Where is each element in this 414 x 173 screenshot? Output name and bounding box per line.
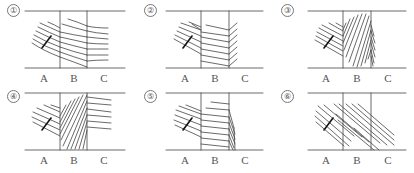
label-b: B <box>67 72 81 84</box>
label-c: C <box>238 72 252 84</box>
label-a: A <box>319 154 333 166</box>
panel-5: ⑤ <box>137 86 275 172</box>
panel-diagram <box>137 0 275 86</box>
label-a: A <box>178 72 192 84</box>
label-c: C <box>238 154 252 166</box>
label-a: A <box>37 154 51 166</box>
panel-number: ④ <box>7 90 20 103</box>
label-c: C <box>97 72 111 84</box>
label-a: A <box>319 72 333 84</box>
panel-number: ② <box>144 4 157 17</box>
panel-number: ③ <box>281 4 294 17</box>
label-a: A <box>37 72 51 84</box>
panel-diagram <box>137 86 275 172</box>
label-c: C <box>381 72 395 84</box>
panel-3: ③ <box>274 0 412 86</box>
panel-1: ① <box>0 0 138 86</box>
label-a: A <box>178 154 192 166</box>
panel-2: ② <box>137 0 275 86</box>
label-b: B <box>350 154 364 166</box>
label-c: C <box>381 154 395 166</box>
label-b: B <box>67 154 81 166</box>
panel-number: ⑤ <box>144 90 157 103</box>
label-b: B <box>208 154 222 166</box>
arrow-icon <box>42 118 51 130</box>
label-b: B <box>350 72 364 84</box>
panel-number: ① <box>7 4 20 17</box>
panel-4: ④ <box>0 86 138 172</box>
label-b: B <box>208 72 222 84</box>
label-c: C <box>97 154 111 166</box>
panel-6: ⑥ A B C <box>274 86 412 172</box>
panel-number: ⑥ <box>281 90 294 103</box>
